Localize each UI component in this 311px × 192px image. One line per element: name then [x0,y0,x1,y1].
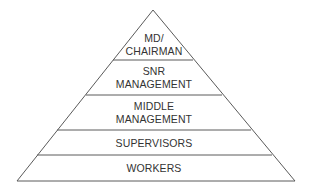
tier-label-line: MANAGEMENT [94,78,214,91]
tier-label-workers: WORKERS [94,162,214,175]
hierarchy-pyramid: MD/ CHAIRMAN SNR MANAGEMENT MIDDLE MANAG… [0,0,311,192]
tier-label-line: SNR [94,65,214,78]
tier-label-line: SUPERVISORS [94,137,214,150]
tier-label-line: MD/ [104,32,204,45]
tier-label-line: MIDDLE [94,100,214,113]
tier-label-line: MANAGEMENT [94,113,214,126]
tier-label-supervisors: SUPERVISORS [94,137,214,150]
tier-label-line: WORKERS [94,162,214,175]
tier-label-line: CHAIRMAN [104,45,204,58]
tier-label-middle-management: MIDDLE MANAGEMENT [94,100,214,125]
tier-label-snr-management: SNR MANAGEMENT [94,65,214,90]
tier-label-md-chairman: MD/ CHAIRMAN [104,32,204,57]
